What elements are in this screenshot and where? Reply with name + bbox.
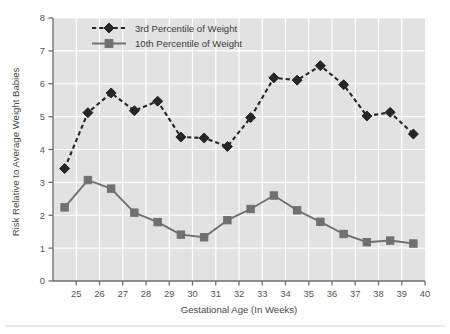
x-tick-label: 28 [141,288,151,299]
y-axis-title: Risk Relative to Average Weight Babies [10,67,21,236]
data-point-square [340,230,347,237]
data-point-square [131,209,138,216]
x-axis-title: Gestational Age (In Weeks) [181,304,298,315]
x-tick-label: 37 [350,288,360,299]
data-point-square [247,205,254,212]
y-axis-tick-labels: 012345678 [40,12,45,286]
y-tick-label: 5 [40,111,45,122]
x-tick-label: 33 [257,288,267,299]
data-point-square [363,239,370,246]
x-tick-label: 32 [234,288,244,299]
x-tick-label: 26 [94,288,104,299]
x-tick-label: 31 [211,288,221,299]
data-point-square [293,207,300,214]
y-tick-label: 3 [40,177,45,188]
x-tick-label: 36 [327,288,337,299]
data-point-square [177,231,184,238]
x-tick-label: 29 [164,288,174,299]
x-tick-label: 38 [373,288,383,299]
x-tick-label: 39 [397,288,407,299]
data-point-square [200,234,207,241]
x-axis-tick-labels: 25262728293031323334353637383940 [71,288,430,299]
data-point-square [317,218,324,225]
x-tick-label: 30 [187,288,197,299]
x-tick-label: 35 [304,288,314,299]
x-tick-label: 27 [118,288,128,299]
chart-figure: 012345678 252627282930313233343536373839… [0,0,450,334]
y-tick-label: 4 [40,144,45,155]
y-tick-label: 0 [40,275,45,286]
y-tick-label: 2 [40,210,45,221]
data-point-square [61,204,68,211]
data-point-square [386,237,393,244]
footer-divider [5,325,445,327]
y-tick-label: 6 [40,78,45,89]
x-tick-label: 40 [420,288,430,299]
legend-label-1: 3rd Percentile of Weight [135,23,238,34]
data-point-square [270,192,277,199]
data-point-square [107,185,114,192]
data-point-square [154,218,161,225]
line-chart: 012345678 252627282930313233343536373839… [0,0,450,334]
x-tick-label: 34 [280,288,290,299]
y-tick-label: 8 [40,12,45,23]
data-point-square [105,40,113,48]
data-point-square [410,240,417,247]
legend-label-2: 10th Percentile of Weight [135,38,242,49]
data-point-square [224,216,231,223]
x-tick-label: 25 [71,288,81,299]
y-tick-label: 1 [40,243,45,254]
y-tick-label: 7 [40,45,45,56]
data-point-square [84,176,91,183]
